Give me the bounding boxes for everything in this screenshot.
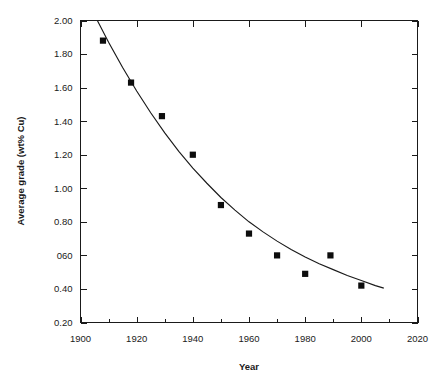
data-point (246, 230, 252, 236)
data-point (274, 252, 280, 258)
y-tick-label: 1.80 (54, 48, 73, 59)
data-point (190, 152, 196, 158)
data-point (218, 202, 224, 208)
data-point (159, 113, 165, 119)
y-tick-label: 1.20 (54, 149, 73, 160)
data-point (100, 38, 106, 44)
y-tick-label: 0.40 (54, 283, 73, 294)
x-tick-label: 1920 (126, 333, 147, 344)
x-tick-labels: 1900192019401960198020002020 (70, 333, 428, 344)
y-tick-label: 060 (57, 250, 73, 261)
y-tick-label: 1.00 (54, 183, 73, 194)
fit-curve-group (97, 21, 383, 289)
plot-frame (81, 21, 418, 323)
x-tick-label: 1900 (70, 333, 91, 344)
x-tick-label: 2020 (407, 333, 428, 344)
x-axis-title: Year (239, 361, 259, 372)
data-point (302, 271, 308, 277)
y-tick-label: 1.60 (54, 82, 73, 93)
y-tick-label: 2.00 (54, 15, 73, 26)
x-tick-label: 1960 (238, 333, 259, 344)
axis-ticks (81, 21, 419, 324)
y-tick-labels: 0.200.400600.801.001.201.401.601.802.00 (54, 15, 73, 328)
data-point (358, 282, 364, 288)
x-tick-label: 2000 (351, 333, 372, 344)
trend-line (97, 21, 383, 289)
scatter-chart-canvas: 1900192019401960198020002020 0.200.40060… (0, 0, 431, 381)
data-point (327, 252, 333, 258)
y-tick-label: 1.40 (54, 116, 73, 127)
chart-figure: 1900192019401960198020002020 0.200.40060… (0, 0, 431, 381)
x-tick-label: 1980 (295, 333, 316, 344)
data-point-markers (100, 38, 365, 289)
y-tick-label: 0.20 (54, 317, 73, 328)
y-axis-title: Average grade (wt% Cu) (15, 117, 26, 226)
data-point (128, 79, 134, 85)
y-tick-label: 0.80 (54, 216, 73, 227)
x-tick-label: 1940 (182, 333, 203, 344)
